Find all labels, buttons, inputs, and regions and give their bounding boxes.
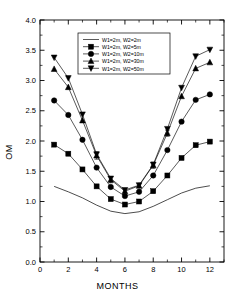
x-tick-label: 10: [177, 265, 185, 274]
marker-circle: [80, 137, 85, 142]
series-3: [51, 59, 212, 193]
plot-area: 0.00.51.01.52.02.53.03.54.0024681012W1=2…: [0, 0, 235, 303]
series-line: [54, 142, 210, 205]
series-2: [51, 92, 212, 199]
x-tick-label: 8: [151, 265, 155, 274]
marker-triangle-down: [193, 54, 199, 60]
legend: W1=2m, W2=2mW1=2m, W2=5mW1=2m, W2=10mW1=…: [78, 33, 170, 74]
marker-triangle-up: [51, 66, 57, 72]
marker-triangle-down: [207, 47, 213, 53]
x-tick-label: 0: [38, 265, 42, 274]
series-line: [54, 62, 210, 191]
marker-circle: [207, 92, 212, 97]
marker-triangle-down: [65, 76, 71, 82]
legend-label: W1=2m, W2=10m: [102, 51, 144, 57]
marker-square: [94, 184, 99, 189]
marker-circle: [122, 193, 127, 198]
marker-circle: [193, 97, 198, 102]
y-tick-label: 1.0: [26, 197, 36, 206]
y-axis-label-wrap: OM: [2, 125, 16, 185]
x-tick-label: 4: [95, 265, 99, 274]
y-tick-label: 2.5: [26, 106, 36, 115]
x-tick-label: 2: [66, 265, 70, 274]
marker-circle: [151, 173, 156, 178]
chart-figure: 0.00.51.01.52.02.53.03.54.0024681012W1=2…: [0, 0, 235, 303]
marker-square: [52, 142, 57, 147]
marker-circle: [179, 119, 184, 124]
marker-triangle-down: [80, 112, 86, 118]
y-tick-label: 2.0: [26, 137, 36, 146]
y-tick-label: 3.0: [26, 76, 36, 85]
marker-circle: [136, 189, 141, 194]
x-tick-label: 12: [206, 265, 214, 274]
series-line: [54, 186, 210, 214]
series-1: [52, 139, 213, 207]
legend-label: W1=2m, W2=30m: [102, 58, 144, 64]
y-tick-label: 4.0: [26, 16, 36, 25]
marker-circle: [94, 165, 99, 170]
marker-circle: [165, 147, 170, 152]
marker-circle: [66, 112, 71, 117]
marker-square: [179, 155, 184, 160]
marker-square: [151, 189, 156, 194]
marker-triangle-down: [164, 126, 170, 132]
y-tick-label: 0.5: [26, 227, 36, 236]
y-tick-label: 1.5: [26, 167, 36, 176]
marker-square: [66, 151, 71, 156]
marker-square: [207, 139, 212, 144]
series-line: [54, 94, 210, 196]
legend-label: W1=2m, W2=5m: [102, 44, 141, 50]
marker-square: [193, 143, 198, 148]
x-axis-label: MONTHS: [0, 281, 235, 291]
legend-label: W1=2m, W2=50m: [102, 66, 144, 72]
marker-square: [108, 197, 113, 202]
x-tick-label: 6: [123, 265, 127, 274]
y-tick-label: 0.0: [26, 258, 36, 267]
marker-triangle-up: [207, 59, 213, 65]
marker-square: [89, 44, 94, 49]
marker-square: [80, 167, 85, 172]
y-tick-label: 3.5: [26, 46, 36, 55]
series-0: [54, 186, 210, 214]
legend-label: W1=2m, W2=2m: [102, 37, 141, 43]
y-axis-label: OM: [4, 122, 14, 182]
marker-circle: [88, 51, 93, 56]
marker-square: [165, 173, 170, 178]
marker-triangle-up: [193, 65, 199, 71]
marker-square: [137, 199, 142, 204]
marker-triangle-down: [179, 85, 185, 91]
marker-circle: [51, 98, 56, 103]
marker-circle: [108, 184, 113, 189]
marker-square: [122, 202, 127, 207]
marker-triangle-down: [51, 55, 57, 61]
